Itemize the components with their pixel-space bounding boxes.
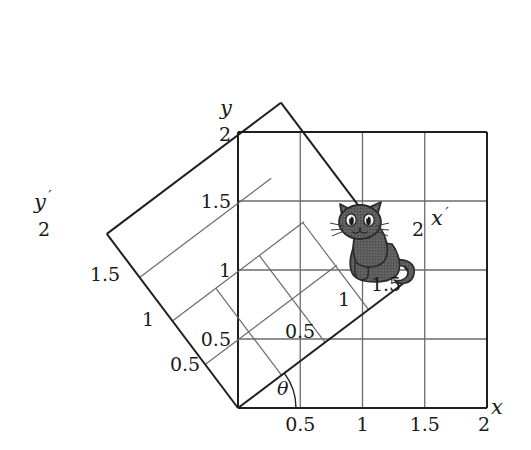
y-tick-0.5: 0.5 — [201, 328, 231, 350]
yprime-axis-ticks: 0.5 1 1.5 2 y ′ — [33, 187, 200, 375]
yprime-axis-label-base: y — [33, 190, 47, 214]
xprime-tick-2: 2 — [412, 218, 424, 240]
xprime-axis-label-base: x — [431, 206, 443, 230]
xprime-axis-label-prime: ′ — [445, 204, 449, 222]
x-tick-1: 1 — [356, 413, 368, 435]
yprime-tick-1.5: 1.5 — [90, 263, 120, 285]
primed-grid-far-y-edge — [107, 103, 281, 234]
x-tick-0.5: 0.5 — [285, 413, 315, 435]
x-axis-ticks: 0.5 1 1.5 2 x — [285, 395, 503, 435]
xprime-tick-1: 1 — [338, 288, 350, 310]
xprime-tick-1.5: 1.5 — [371, 273, 401, 295]
x-axis-label: x — [491, 395, 503, 419]
x-tick-1.5: 1.5 — [410, 413, 440, 435]
y-axis-label: y — [219, 96, 233, 120]
coordinate-diagram: θ — [0, 0, 531, 450]
xprime-axis-line — [238, 277, 412, 408]
yprime-tick-2: 2 — [38, 218, 50, 240]
y-tick-2: 2 — [219, 123, 231, 145]
x-tick-2: 2 — [478, 413, 490, 435]
yprime-axis-label-prime: ′ — [48, 187, 52, 205]
y-axis-ticks: 0.5 1 1.5 2 y — [201, 96, 233, 350]
theta-label: θ — [277, 377, 289, 399]
xprime-tick-0.5: 0.5 — [285, 320, 315, 342]
y-tick-1.5: 1.5 — [201, 190, 231, 212]
figure-root: θ — [0, 0, 531, 450]
cat-icon — [330, 202, 414, 283]
y-tick-1: 1 — [219, 259, 231, 281]
yprime-tick-0.5: 0.5 — [170, 353, 200, 375]
yprime-tick-1: 1 — [142, 308, 154, 330]
